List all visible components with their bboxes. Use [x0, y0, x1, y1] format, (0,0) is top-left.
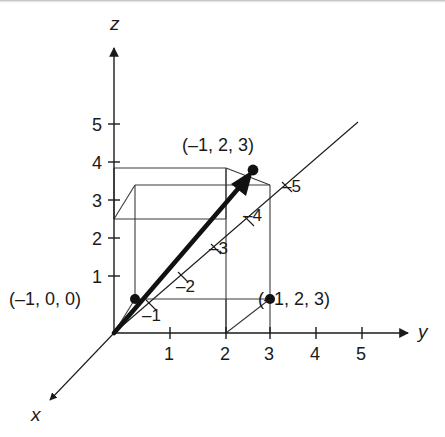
- z-tick-label-3: 3: [92, 192, 102, 210]
- x-axis-letter: x: [31, 405, 41, 424]
- coordinate-diagram-figure: 1 2 3 4 5 1 2 3 4 5 –1 –2 –3 –4 –5 z y x…: [0, 0, 445, 437]
- y-axis: [114, 327, 408, 339]
- z-tick-label-2: 2: [92, 230, 102, 248]
- y-tick-label-2: 2: [220, 345, 230, 363]
- floor-point-label: (–1, 2, 3): [258, 290, 330, 308]
- x-tick-label-5: –5: [282, 178, 301, 195]
- y-tick-label-3: 3: [264, 345, 274, 363]
- z-tick-label-5: 5: [92, 116, 102, 134]
- y-tick-label-1: 1: [164, 345, 174, 363]
- position-vector-shaft: [114, 183, 243, 333]
- point-vector-tip: [248, 165, 259, 176]
- vector-tip-label: (–1, 2, 3): [182, 136, 254, 154]
- z-tick-label-1: 1: [92, 268, 102, 286]
- diagram-canvas: [0, 0, 445, 437]
- z-tick-label-4: 4: [92, 154, 102, 172]
- x-tick-label-4: –4: [243, 207, 262, 224]
- z-axis-letter: z: [110, 14, 120, 33]
- x-tick-label-3: –3: [209, 240, 228, 257]
- origin-side-label: (–1, 0, 0): [9, 290, 81, 308]
- box-top-left-diagonal: [114, 185, 135, 219]
- z-axis: [108, 48, 120, 333]
- x-tick-label-2: –2: [176, 278, 195, 295]
- y-tick-label-4: 4: [310, 345, 320, 363]
- point-x-axis-minus-one: [130, 294, 140, 304]
- x-tick-label-1: –1: [142, 307, 161, 324]
- y-axis-letter: y: [418, 322, 428, 341]
- y-tick-label-5: 5: [356, 345, 366, 363]
- x-axis-negative-ray: [50, 333, 114, 400]
